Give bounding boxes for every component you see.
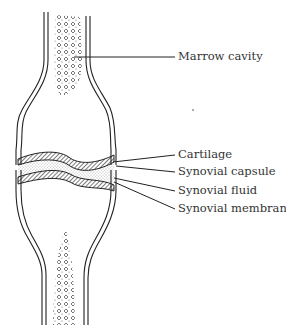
label-marrow-cavity: Marrow cavity (178, 51, 263, 63)
joint-diagram: Marrow cavity Cartilage Synovial capsule… (0, 0, 286, 331)
label-synovial-capsule: Synovial capsule (178, 166, 276, 178)
label-synovial-membrane: Synovial membrane (178, 203, 286, 215)
stray-dot (192, 109, 194, 111)
label-synovial-fluid: Synovial fluid (178, 185, 257, 197)
lower-marrow-cavity (53, 230, 75, 325)
upper-marrow-cavity (54, 15, 82, 96)
label-cartilage: Cartilage (178, 149, 232, 161)
